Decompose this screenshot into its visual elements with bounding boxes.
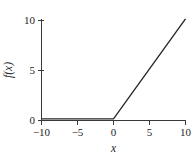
y-axis-title: f(x) bbox=[2, 62, 15, 78]
x-tick-label-neg5: −5 bbox=[72, 126, 84, 138]
y-tick-label-10: 10 bbox=[24, 14, 36, 26]
x-tick-label-neg10: −10 bbox=[33, 126, 51, 138]
relu-function-chart: 10 5 0 −10 −5 0 5 10 x f(x) bbox=[0, 0, 196, 157]
y-tick-label-5: 5 bbox=[30, 64, 36, 76]
y-tick-label-0: 0 bbox=[30, 114, 36, 126]
x-tick-label-5: 5 bbox=[147, 126, 153, 138]
x-axis-title: x bbox=[110, 142, 117, 154]
chart-screenshot: 10 5 0 −10 −5 0 5 10 x f(x) bbox=[0, 0, 196, 157]
x-tick-label-10: 10 bbox=[180, 126, 192, 138]
x-tick-label-0: 0 bbox=[111, 126, 117, 138]
